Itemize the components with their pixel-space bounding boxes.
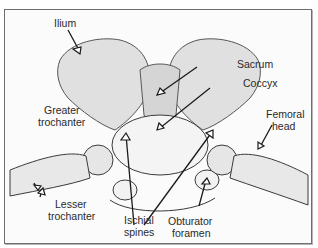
label-obturator-foramen-line1: Obturator [168,215,212,227]
label-greater-trochanter-line2: trochanter [38,116,85,128]
label-femoral-head-line2: head [272,120,295,132]
label-ilium: Ilium [54,17,76,29]
label-sacrum: Sacrum [237,58,273,70]
label-ischial-spines-line2: spines [124,226,154,238]
label-lesser-trochanter-line1: Lesser [55,198,87,210]
label-greater-trochanter-line1: Greater [44,104,80,116]
label-coccyx: Coccyx [243,77,277,89]
label-ischial-spines-line1: Ischial [124,214,154,226]
label-lesser-trochanter-line2: trochanter [48,210,95,222]
label-obturator-foramen-line2: foramen [172,227,211,239]
label-femoral-head-line1: Femoral [266,108,305,120]
